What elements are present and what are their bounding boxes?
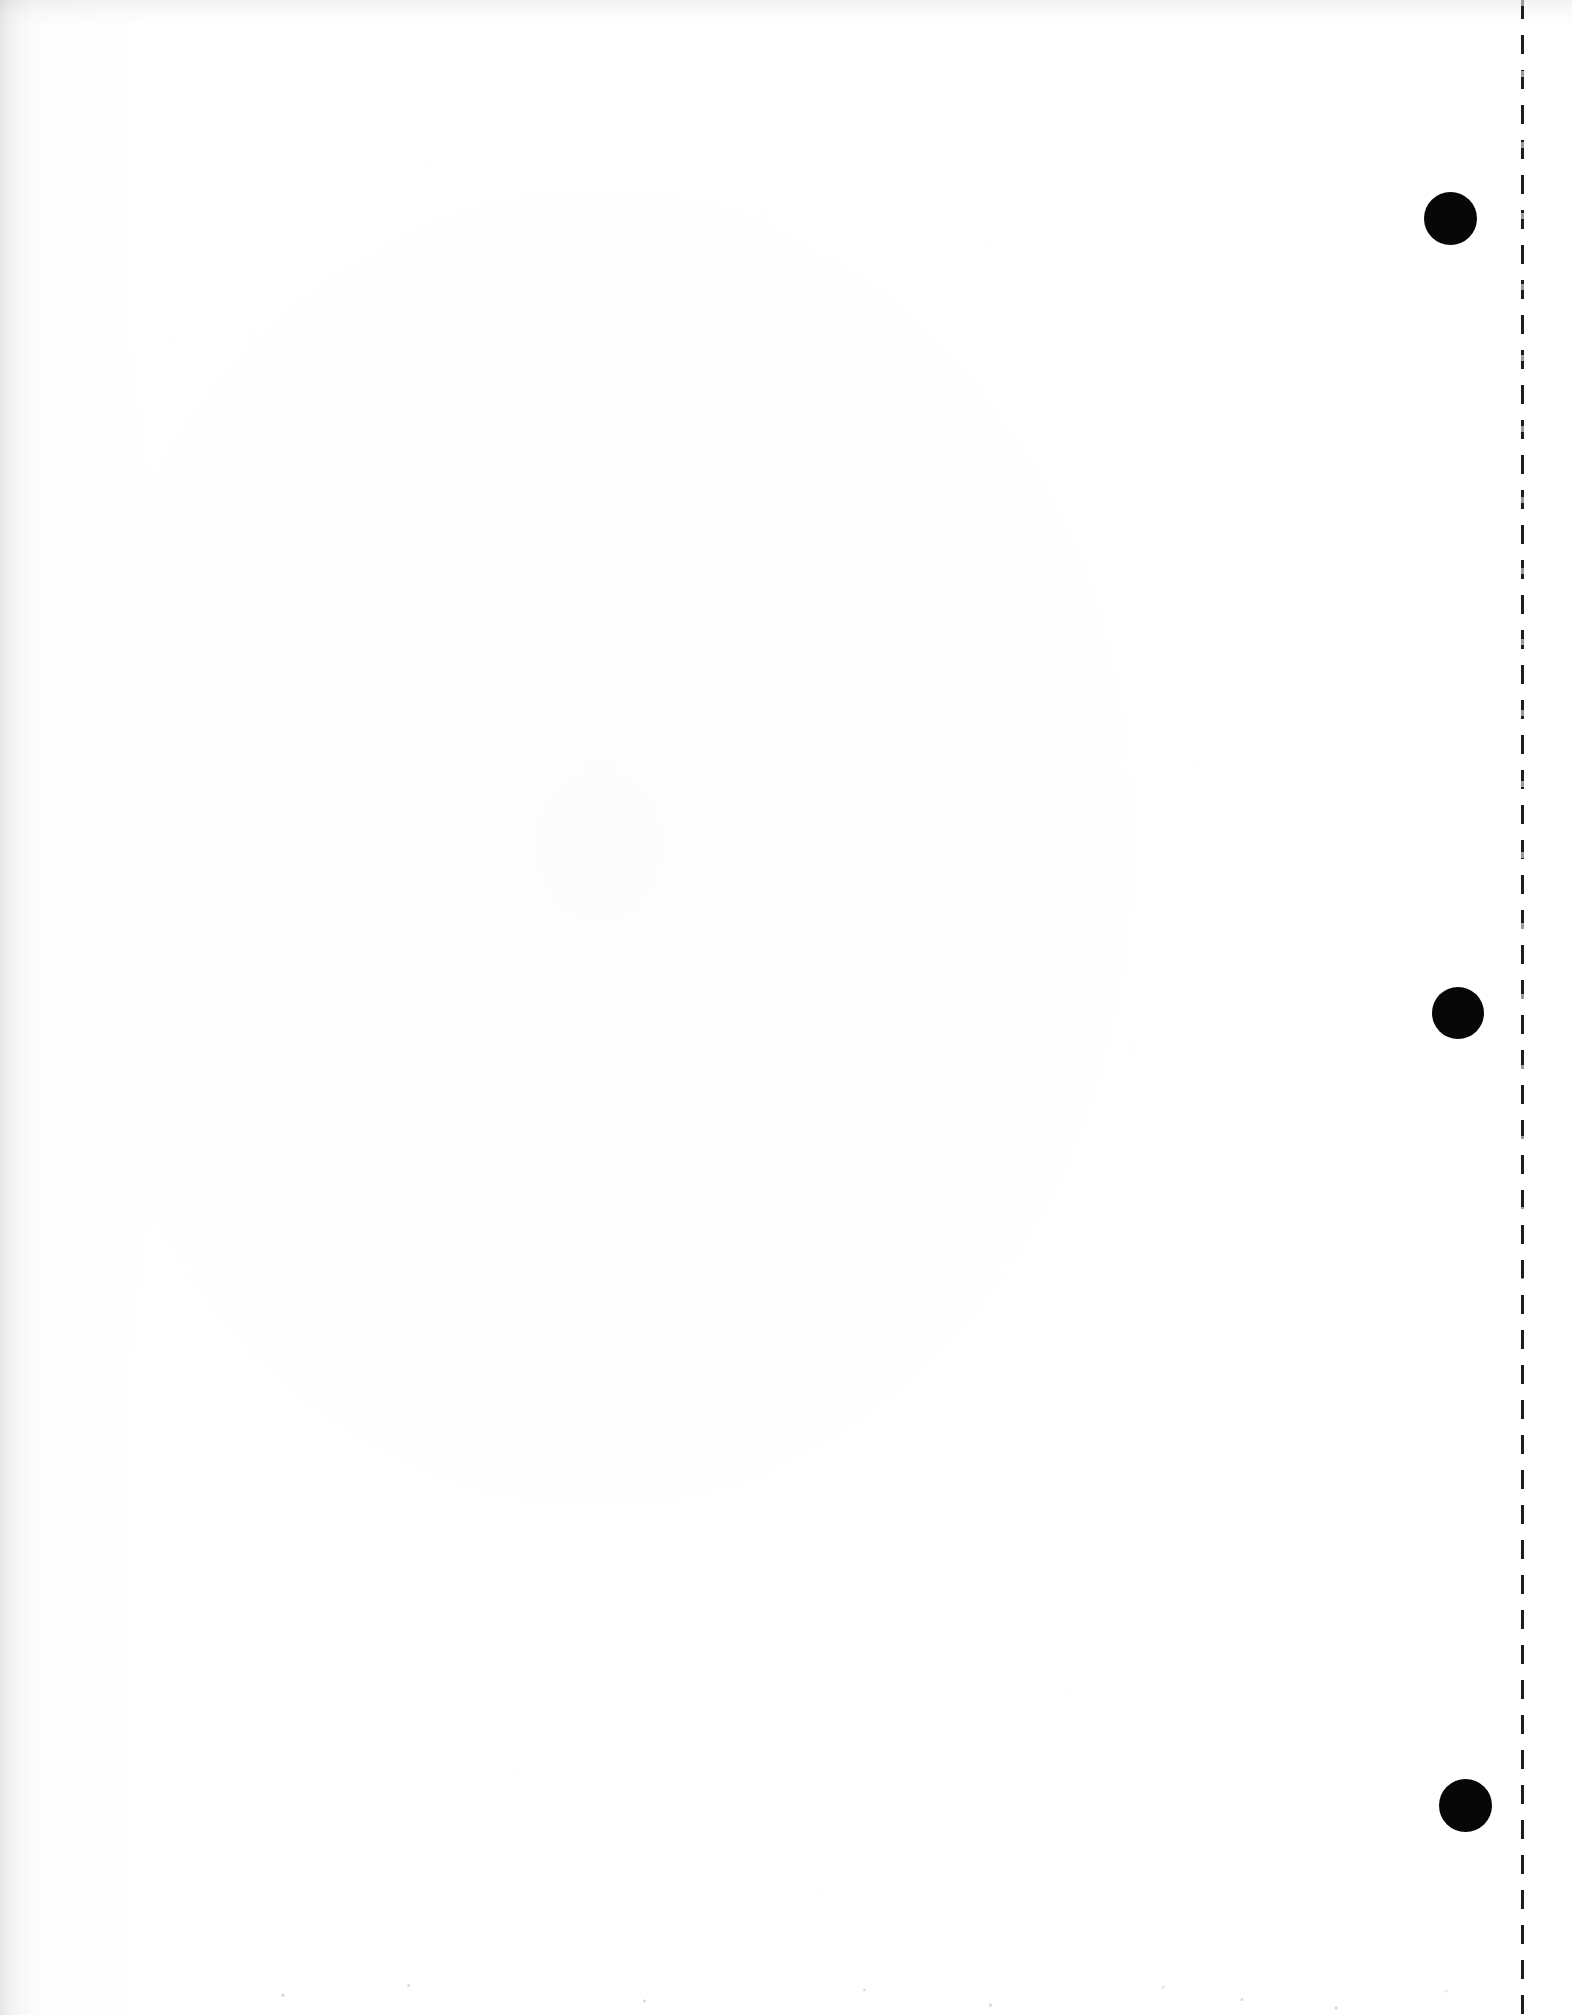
bottom-edge-speckles <box>0 1945 1572 2015</box>
left-edge-scan-shadow <box>0 0 34 2015</box>
paper-background <box>0 0 1572 2015</box>
punch-hole-middle <box>1432 987 1484 1039</box>
top-edge-scan-shadow <box>0 0 1572 26</box>
punch-hole-bottom <box>1439 1779 1492 1832</box>
scanned-page <box>0 0 1572 2015</box>
punch-hole-top <box>1424 192 1477 245</box>
paper-grain-texture <box>0 0 1572 2015</box>
perforation-tear-line <box>1521 0 1524 2015</box>
